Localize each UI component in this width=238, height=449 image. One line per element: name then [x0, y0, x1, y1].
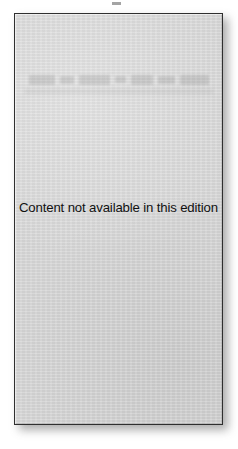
scan-speck-artifact-icon [112, 2, 121, 5]
scan-smudge-artifact [25, 89, 213, 94]
content-unavailable-message: Content not available in this edition [15, 200, 222, 216]
plate-bevel-edge [15, 14, 222, 424]
scanned-page: Content not available in this edition [0, 0, 238, 449]
illegible-ghost-watermark [29, 72, 210, 87]
content-placeholder-plate: Content not available in this edition [14, 13, 223, 425]
